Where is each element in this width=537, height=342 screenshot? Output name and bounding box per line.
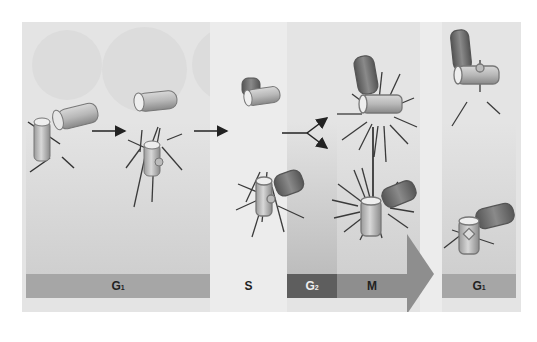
stage-1-centrioles (28, 101, 100, 172)
stage-4-bottom (332, 168, 419, 240)
centrosome-illustrations (22, 22, 521, 312)
stage-2-centrioles (126, 90, 182, 207)
cycle-arrow-head (407, 234, 434, 312)
diagram-panel: G1 S G2 M G1 (22, 22, 521, 312)
stage-5-top (450, 29, 500, 126)
branch-arrow (282, 118, 327, 148)
stage-3-bottom (236, 168, 306, 237)
stage-3-top (242, 78, 281, 106)
stage-5-bottom (444, 202, 516, 254)
stage-4-top (337, 55, 417, 162)
